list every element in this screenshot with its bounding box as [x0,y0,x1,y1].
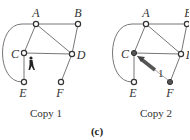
node-f [58,79,63,84]
node-e [131,79,136,84]
label-b: B [74,6,82,20]
label-d: D [76,48,86,62]
node-c-filled [131,50,136,55]
label-c: C [121,47,130,61]
label-b: B [184,6,189,20]
label-e: E [18,86,27,100]
label-d: D [185,48,189,62]
node-b [75,21,80,26]
node-f-filled [167,79,172,84]
label-e: E [128,86,137,100]
node-e [21,79,26,84]
person-walking-icon [29,56,36,70]
caption-copy-1: Copy 1 [30,107,62,119]
caption-copy-2: Copy 2 [140,107,172,119]
label-a: A [31,6,40,20]
figure-label: (c) [91,125,104,138]
copy-1-graph: A B C D E F Copy 1 [3,6,86,119]
copy-2-graph: 1 A B C D E F Copy 2 [113,6,190,119]
node-b [184,21,189,26]
label-f: F [165,86,174,100]
label-f: F [55,86,64,100]
node-a [143,21,148,26]
label-c: C [11,47,20,61]
node-d [69,51,74,56]
node-d [178,51,183,56]
node-a [33,21,38,26]
arrow-label: 1 [158,67,164,79]
graph-figure: A B C D E F Copy 1 1 A B C D E F Copy 2 [0,0,189,140]
node-c [21,50,26,55]
label-a: A [141,6,150,20]
